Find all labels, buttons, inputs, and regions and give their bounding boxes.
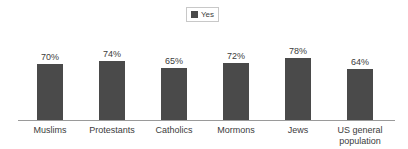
bar-chart: Yes 70% Muslims 74% Protestants 65% Cath… [0, 0, 408, 149]
category-label-line: population [329, 136, 391, 147]
category-label-line: Catholics [155, 125, 192, 135]
bar[interactable] [99, 61, 125, 120]
category-label: Catholics [143, 125, 205, 136]
category-label-line: Mormons [217, 125, 255, 135]
bar-value-label: 74% [81, 49, 143, 59]
category-label-line: Protestants [89, 125, 135, 135]
category-label: Protestants [81, 125, 143, 136]
bar-group: 70% Muslims [19, 0, 81, 149]
bar[interactable] [37, 64, 63, 120]
plot-area: 70% Muslims 74% Protestants 65% Catholic… [0, 0, 408, 149]
bar-group: 78% Jews [267, 0, 329, 149]
category-label: Mormons [205, 125, 267, 136]
bar[interactable] [347, 69, 373, 120]
bar[interactable] [223, 63, 249, 120]
category-label-line: Jews [288, 125, 309, 135]
bar-value-label: 70% [19, 52, 81, 62]
bar-value-label: 65% [143, 56, 205, 66]
bar[interactable] [285, 58, 311, 120]
bar-group: 64% US general population [329, 0, 391, 149]
category-label-line: US general [337, 125, 382, 135]
bar-value-label: 64% [329, 57, 391, 67]
bar-group: 72% Mormons [205, 0, 267, 149]
category-label: Jews [267, 125, 329, 136]
category-label: US general population [329, 125, 391, 147]
bar-value-label: 72% [205, 51, 267, 61]
bar-group: 74% Protestants [81, 0, 143, 149]
bar-value-label: 78% [267, 46, 329, 56]
bar[interactable] [161, 68, 187, 120]
category-label: Muslims [19, 125, 81, 136]
bar-group: 65% Catholics [143, 0, 205, 149]
category-label-line: Muslims [34, 125, 67, 135]
